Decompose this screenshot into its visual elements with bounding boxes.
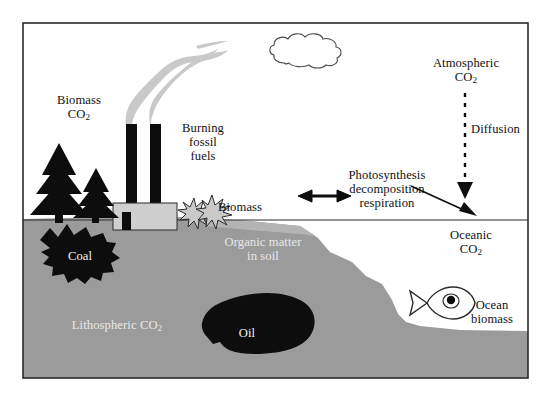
oceanic-line1: Oceanic bbox=[450, 228, 492, 242]
ocean-biomass-line1: Ocean bbox=[476, 298, 509, 312]
biomass-co2-line2: CO2 bbox=[68, 107, 90, 121]
burning-fossil-fuels-label: Burning fossil fuels bbox=[169, 121, 237, 163]
burning-line3: fuels bbox=[191, 149, 216, 163]
photosynthesis-line1: Photosynthesis bbox=[349, 168, 426, 182]
atmospheric-line1: Atmospheric bbox=[433, 56, 499, 70]
fish-eye-pupil bbox=[447, 296, 455, 304]
atmospheric-co2-label: Atmospheric CO2 bbox=[423, 56, 509, 85]
burning-line2: fossil bbox=[189, 135, 217, 149]
oceanic-co2-label: Oceanic CO2 bbox=[438, 228, 504, 257]
oceanic-line2: CO2 bbox=[460, 242, 482, 256]
burning-line1: Burning bbox=[182, 121, 224, 135]
lithospheric-co2-label: Lithospheric CO2 bbox=[57, 318, 177, 333]
smokestack-left bbox=[126, 124, 137, 207]
photosynthesis-label: Photosynthesis decomposition respiration bbox=[339, 168, 435, 210]
photosynthesis-line3: respiration bbox=[360, 196, 415, 210]
biomass-shrub-label: Biomass bbox=[218, 200, 280, 214]
organic-matter-line2: in soil bbox=[247, 249, 279, 263]
photosynthesis-line2: decomposition bbox=[349, 182, 424, 196]
ocean-biomass-label: Ocean biomass bbox=[461, 298, 523, 326]
oil-label: Oil bbox=[233, 326, 261, 340]
smokestack-right bbox=[150, 124, 161, 207]
organic-matter-label: Organic matter in soil bbox=[208, 235, 318, 263]
atmospheric-line2: CO2 bbox=[455, 70, 477, 84]
ocean-biomass-line2: biomass bbox=[471, 312, 513, 326]
carbon-cycle-figure: Biomass CO2 Burning fossil fuels Biomass… bbox=[0, 0, 551, 398]
biomass-co2-line1: Biomass bbox=[57, 93, 101, 107]
factory-door bbox=[122, 212, 131, 230]
coal-label: Coal bbox=[58, 249, 102, 263]
diffusion-label: Diffusion bbox=[471, 122, 533, 136]
biomass-co2-label: Biomass CO2 bbox=[37, 93, 121, 122]
organic-matter-line1: Organic matter bbox=[224, 235, 301, 249]
cloud-icon bbox=[270, 34, 341, 68]
